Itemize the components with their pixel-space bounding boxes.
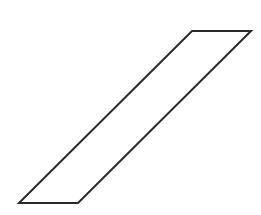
parallelogram-shape (19, 31, 251, 203)
parallelogram-diagram (0, 0, 261, 215)
diagram-canvas (0, 0, 261, 215)
